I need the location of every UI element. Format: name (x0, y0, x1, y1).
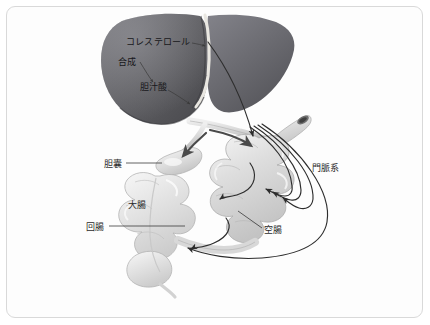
appendix (160, 284, 175, 297)
cecum-body (127, 251, 172, 287)
anatomy-figure: コレステロール 合成 胆汁酸 胆囊 大腸 回腸 空腸 門脈系 (0, 0, 430, 325)
liver-organ (101, 14, 294, 125)
label-bile-acid: 胆汁酸 (140, 81, 168, 92)
colon-body (119, 173, 196, 260)
label-synthesis: 合成 (118, 56, 136, 67)
label-large-intestine: 大腸 (128, 199, 146, 210)
label-cholesterol: コレステロール (126, 37, 190, 47)
liver-right-lobe (206, 15, 294, 113)
label-portal-system: 門脈系 (312, 162, 340, 173)
label-jejunum: 空腸 (264, 224, 282, 235)
label-ileum: 回腸 (86, 222, 104, 232)
label-gallbladder: 胆囊 (104, 158, 122, 169)
enterohepatic-circulation-diagram: コレステロール 合成 胆汁酸 胆囊 大腸 回腸 空腸 門脈系 (0, 0, 430, 325)
liver-sheen (101, 14, 210, 125)
gallbladder-organ (156, 148, 202, 175)
gallbladder-highlight (164, 158, 182, 166)
